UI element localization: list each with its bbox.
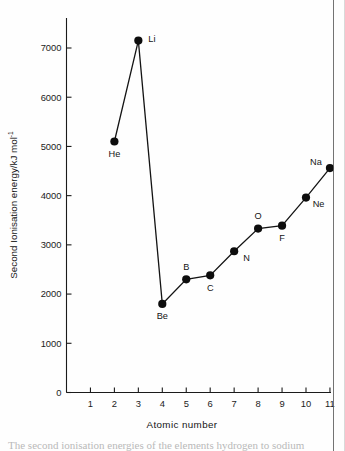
point-label-O: O	[255, 211, 262, 221]
x-tick-label-10: 10	[301, 398, 311, 409]
point-label-Li: Li	[148, 34, 155, 44]
x-tick-label-7: 7	[232, 398, 237, 409]
data-point-F	[278, 222, 286, 230]
y-tick-label-1000: 1000	[41, 338, 62, 349]
x-axis-title: Atomic number	[146, 419, 217, 430]
page-edge-artifact	[333, 0, 334, 451]
y-axis-tick-labels: 01000200030004000500060007000	[41, 42, 62, 398]
x-tick-label-9: 9	[279, 398, 284, 409]
y-axis-title: Second Ionisation energy/kJ mol-1	[7, 131, 19, 279]
y-tick-label-0: 0	[56, 387, 61, 398]
point-label-F: F	[279, 233, 285, 243]
caption-strip: The second ionisation energies of the el…	[0, 439, 345, 451]
y-tick-label-3000: 3000	[41, 239, 62, 250]
figure-caption: The second ionisation energies of the el…	[8, 439, 304, 451]
y-axis-title-superscript: -1	[7, 131, 14, 137]
x-tick-label-5: 5	[184, 398, 189, 409]
data-point-labels: HeLiBeBCNOFNeNa	[109, 34, 325, 321]
y-axis-ticks	[67, 48, 72, 393]
data-point-markers	[110, 37, 334, 308]
y-tick-label-4000: 4000	[41, 190, 62, 201]
y-axis-title-main: Second Ionisation energy/kJ mol	[8, 137, 19, 279]
ionisation-energy-line-chart: 01000200030004000500060007000 1234567891…	[0, 0, 345, 451]
data-point-Li	[134, 37, 142, 45]
x-axis-ticks	[90, 388, 330, 393]
x-tick-label-6: 6	[208, 398, 213, 409]
x-tick-label-2: 2	[112, 398, 117, 409]
figure-container: 01000200030004000500060007000 1234567891…	[0, 0, 345, 451]
y-tick-label-7000: 7000	[41, 42, 62, 53]
point-label-Be: Be	[157, 311, 168, 321]
y-tick-label-5000: 5000	[41, 141, 62, 152]
point-label-B: B	[183, 262, 189, 272]
point-label-C: C	[207, 283, 214, 293]
x-tick-label-4: 4	[160, 398, 165, 409]
x-axis-tick-labels: 1234567891011	[88, 398, 335, 409]
data-point-Be	[158, 300, 166, 308]
x-tick-label-3: 3	[136, 398, 141, 409]
data-point-Ne	[302, 194, 310, 202]
x-tick-label-8: 8	[255, 398, 260, 409]
data-point-N	[230, 247, 238, 255]
data-series-line	[114, 41, 330, 304]
y-tick-label-2000: 2000	[41, 288, 62, 299]
data-point-C	[206, 271, 214, 279]
data-point-O	[254, 225, 262, 233]
point-label-He: He	[109, 149, 121, 159]
y-tick-label-6000: 6000	[41, 92, 62, 103]
x-tick-label-1: 1	[88, 398, 93, 409]
point-label-N: N	[243, 253, 250, 263]
point-label-Na: Na	[310, 157, 323, 167]
chart-plot-area: 01000200030004000500060007000 1234567891…	[0, 0, 345, 451]
data-point-He	[110, 137, 118, 145]
point-label-Ne: Ne	[313, 199, 325, 209]
data-point-B	[182, 275, 190, 283]
